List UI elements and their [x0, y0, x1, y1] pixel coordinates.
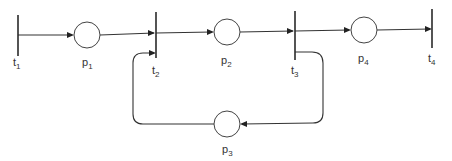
label-p3: p3 — [222, 143, 233, 158]
labels: t1 p1 t2 p2 t3 p4 t4 p3 — [13, 52, 436, 158]
place-p3 — [214, 111, 240, 137]
petri-net-diagram: t1 p1 t2 p2 t3 p4 t4 p3 — [0, 0, 452, 161]
arrowhead-icon — [344, 27, 351, 33]
arc-t2-p2 — [156, 32, 212, 33]
label-t3: t3 — [291, 64, 299, 79]
label-p2: p2 — [221, 54, 232, 69]
place-p2 — [214, 19, 240, 45]
label-t2: t2 — [152, 64, 160, 79]
arrowhead-icon — [240, 121, 247, 127]
arc-p3-t2 — [133, 53, 214, 124]
place-p4 — [351, 17, 377, 43]
arc-p4-t4 — [377, 29, 430, 30]
arrowhead-icon — [148, 30, 155, 36]
label-t4: t4 — [428, 52, 436, 67]
label-p1: p1 — [82, 56, 93, 71]
arc-p1-t2 — [100, 33, 154, 35]
place-p1 — [74, 22, 100, 48]
arrowhead-icon — [207, 29, 214, 35]
places — [74, 17, 377, 137]
arrowhead-icon — [67, 32, 74, 38]
arc-t3-p4 — [295, 30, 349, 31]
arrowhead-icon — [149, 50, 156, 56]
arc-p2-t3 — [240, 31, 293, 32]
arrowhead-icon — [287, 28, 294, 34]
label-t1: t1 — [13, 56, 21, 71]
label-p4: p4 — [358, 52, 369, 67]
arrowhead-icon — [425, 26, 432, 32]
arc-t3-p3 — [242, 52, 323, 124]
